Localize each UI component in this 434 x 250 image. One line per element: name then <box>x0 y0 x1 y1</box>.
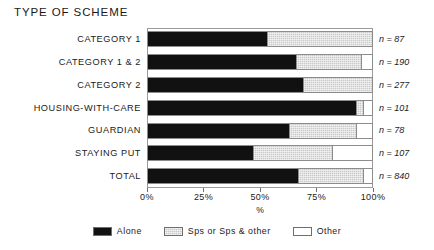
bar-segment <box>356 124 372 138</box>
sample-size-label: n = 840 <box>379 165 434 188</box>
bar-segment <box>148 32 267 46</box>
x-axis-title: % <box>147 205 373 215</box>
legend-label: Sps or Sps & other <box>188 226 271 236</box>
bar-row <box>147 165 373 188</box>
bar-segment <box>332 146 372 160</box>
legend-item: Sps or Sps & other <box>164 226 271 236</box>
bar-segment <box>356 101 363 115</box>
bar-segment <box>289 124 356 138</box>
stacked-bar <box>147 168 373 184</box>
sample-size-label: n = 87 <box>379 28 434 51</box>
bar-segment <box>296 55 361 69</box>
category-label: STAYING PUT <box>0 142 141 165</box>
bar-segment <box>148 78 303 92</box>
legend-label: Alone <box>117 226 142 236</box>
bar-segment <box>148 124 289 138</box>
bar-segment <box>267 32 372 46</box>
chart-container: TYPE OF SCHEME CATEGORY 1CATEGORY 1 & 2C… <box>0 0 434 250</box>
legend-swatch-icon <box>293 227 312 236</box>
category-label: HOUSING-WITH-CARE <box>0 97 141 120</box>
stacked-bar <box>147 145 373 161</box>
bar-rows <box>147 28 373 188</box>
bar-segment <box>148 146 253 160</box>
sample-size-label: n = 277 <box>379 74 434 97</box>
bar-segment <box>148 101 356 115</box>
category-label: CATEGORY 1 & 2 <box>0 51 141 74</box>
bar-row <box>147 74 373 97</box>
bar-segment <box>363 101 372 115</box>
legend-swatch-icon <box>93 227 112 236</box>
bar-row <box>147 28 373 51</box>
x-axis-tick-label: 25% <box>194 192 213 202</box>
sample-size-label: n = 190 <box>379 51 434 74</box>
x-axis-tick-label: 100% <box>361 192 386 202</box>
bar-segment <box>361 55 372 69</box>
bar-row <box>147 97 373 120</box>
stacked-bar <box>147 123 373 139</box>
category-label: CATEGORY 2 <box>0 74 141 97</box>
plot-area <box>147 28 373 188</box>
chart-legend: AloneSps or Sps & otherOther <box>0 226 434 236</box>
sample-size-annotations: n = 87n = 190n = 277n = 101n = 78n = 107… <box>379 28 434 188</box>
stacked-bar <box>147 77 373 93</box>
bar-segment <box>253 146 331 160</box>
bar-row <box>147 51 373 74</box>
x-axis-tick-labels: 0%25%50%75%100% <box>147 192 373 206</box>
bar-segment <box>298 169 363 183</box>
legend-swatch-icon <box>164 227 183 236</box>
stacked-bar <box>147 54 373 70</box>
bar-segment <box>148 169 298 183</box>
sample-size-label: n = 107 <box>379 142 434 165</box>
legend-item: Other <box>293 226 342 236</box>
category-label: GUARDIAN <box>0 119 141 142</box>
chart-title: TYPE OF SCHEME <box>14 6 128 18</box>
legend-label: Other <box>317 226 342 236</box>
x-axis-tick-label: 75% <box>307 192 326 202</box>
bar-segment <box>148 55 296 69</box>
category-label: CATEGORY 1 <box>0 28 141 51</box>
stacked-bar <box>147 31 373 47</box>
bar-segment <box>303 78 372 92</box>
sample-size-label: n = 78 <box>379 119 434 142</box>
sample-size-label: n = 101 <box>379 97 434 120</box>
bar-row <box>147 142 373 165</box>
x-axis-tick-label: 0% <box>140 192 154 202</box>
category-label: TOTAL <box>0 165 141 188</box>
bar-row <box>147 119 373 142</box>
legend-item: Alone <box>93 226 142 236</box>
bar-segment <box>363 169 372 183</box>
stacked-bar <box>147 100 373 116</box>
category-axis-labels: CATEGORY 1CATEGORY 1 & 2CATEGORY 2HOUSIN… <box>0 28 141 188</box>
x-axis-tick-label: 50% <box>250 192 269 202</box>
